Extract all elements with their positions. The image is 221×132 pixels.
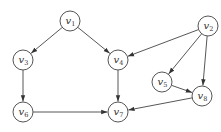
nodes-group: v1v2v3v4v5v6v7v8 (13, 11, 218, 122)
edge-v2-to-v4 (128, 30, 199, 57)
edge-v1-to-v3 (31, 27, 62, 53)
edge-v1-to-v4 (78, 27, 110, 53)
node-v1: v1 (60, 11, 80, 31)
node-v8: v8 (192, 86, 212, 106)
node-v5: v5 (152, 72, 172, 92)
edge-v2-to-v8 (203, 36, 207, 86)
directed-graph: v1v2v3v4v5v6v7v8 (0, 0, 221, 132)
node-v3: v3 (13, 50, 33, 70)
edge-v8-to-v7 (128, 98, 192, 110)
node-v7: v7 (108, 102, 128, 122)
node-v6: v6 (13, 102, 33, 122)
edge-v5-to-v8 (171, 85, 192, 92)
node-v4: v4 (108, 50, 128, 70)
edge-v2-to-v5 (169, 34, 202, 74)
node-v2: v2 (198, 16, 218, 36)
